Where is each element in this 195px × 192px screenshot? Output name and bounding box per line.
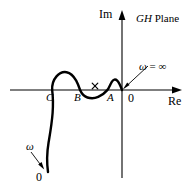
omega-zero-omega-symbol: ω [26,141,34,152]
imaginary-axis-label: Im [99,8,112,20]
real-axis-arrowhead [172,87,182,94]
crossing-label-b: B [74,92,81,103]
omega-infinity-omega-symbol: ω [139,60,147,72]
omega-infinity-equals-symbol: = [147,60,159,72]
plane-label: GH Plane [136,13,179,24]
omega-zero-value-label: 0 [36,171,42,183]
plane-label-rest: Plane [152,12,179,24]
crossing-label-a: A [107,92,114,103]
crossing-label-c: C [46,92,53,103]
plane-label-italic-part: GH [136,12,152,24]
omega-infinity-leader-arrowhead [123,82,130,89]
real-axis-label: Re [168,95,181,107]
omega-infinity-annotation: ω = ∞ [139,61,166,72]
nyquist-plot-canvas [0,0,195,192]
origin-label: 0 [128,92,134,104]
critical-point-x-icon [92,83,98,89]
nyquist-curve [47,72,122,172]
omega-infinity-infinity-symbol: ∞ [159,60,167,72]
gh-plane-figure: Im GH Plane Re 0 A B C ω = ∞ ω 0 [0,0,195,192]
imaginary-axis-arrowhead [119,10,126,20]
